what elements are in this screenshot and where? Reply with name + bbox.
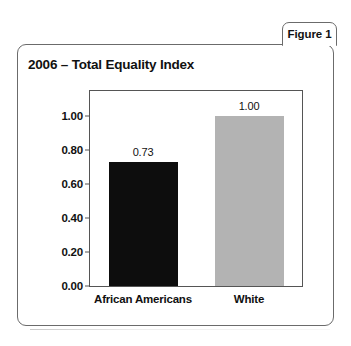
bar-rect: [109, 162, 178, 286]
y-axis-tick-mark: [85, 218, 90, 219]
plot-area: 0.000.200.400.600.801.00 0.73African Ame…: [89, 90, 303, 287]
y-axis-tick-mark: [85, 150, 90, 151]
bar-group: 1.00White: [215, 91, 284, 286]
y-axis-tick-mark: [85, 286, 90, 287]
y-axis-tick-label: 0.00: [61, 280, 83, 292]
bar-value-label: 0.73: [133, 146, 154, 158]
y-axis-tick-label: 1.00: [61, 110, 83, 122]
y-axis-tick-mark: [85, 116, 90, 117]
scan-edge: [30, 329, 330, 330]
y-axis-tick-mark: [85, 252, 90, 253]
y-axis-tick-label: 0.20: [61, 246, 83, 258]
figure-tab-label: Figure 1: [288, 28, 332, 40]
tab-notch: [283, 43, 336, 46]
y-axis-tick-label: 0.60: [61, 178, 83, 190]
bar-category-label: African Americans: [94, 293, 192, 305]
y-axis-tick-label: 0.40: [61, 212, 83, 224]
chart-title: 2006 – Total Equality Index: [28, 57, 194, 72]
bar-category-label: White: [234, 293, 264, 305]
bar-group: 0.73African Americans: [109, 91, 178, 286]
bar-value-label: 1.00: [239, 100, 260, 112]
bar-rect: [215, 116, 284, 286]
y-axis-tick-mark: [85, 184, 90, 185]
y-axis-tick-label: 0.80: [61, 144, 83, 156]
